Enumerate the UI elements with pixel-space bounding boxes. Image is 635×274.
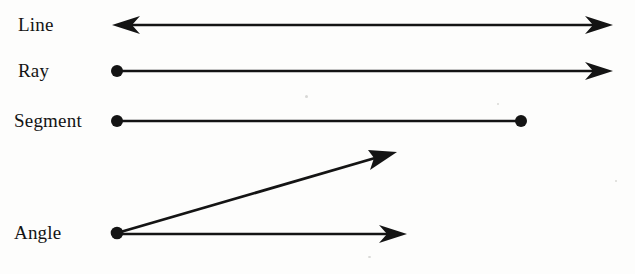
geometry-canvas xyxy=(0,0,635,274)
ray-endpoint-dot xyxy=(111,65,123,77)
segment-right-endpoint-dot xyxy=(515,115,527,127)
figure-angle-glyph xyxy=(111,150,407,243)
angle-vertex-dot xyxy=(111,227,124,240)
figure-line-glyph xyxy=(112,16,613,34)
geometry-figure: Line Ray Segment Angle xyxy=(0,0,635,274)
figure-segment-glyph xyxy=(111,115,527,127)
segment-left-endpoint-dot xyxy=(111,115,123,127)
angle-upper-ray-shaft xyxy=(117,156,382,233)
figure-ray-glyph xyxy=(111,62,613,80)
